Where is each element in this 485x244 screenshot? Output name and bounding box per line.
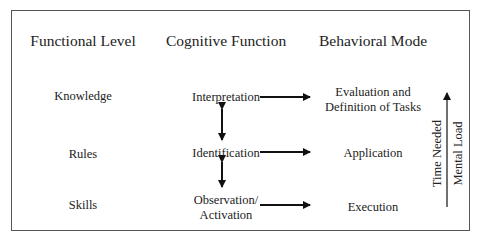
side-label-time-needed: Time Needed	[430, 114, 445, 194]
arrows-layer	[0, 0, 485, 244]
side-label-mental-load: Mental Load	[451, 114, 466, 194]
